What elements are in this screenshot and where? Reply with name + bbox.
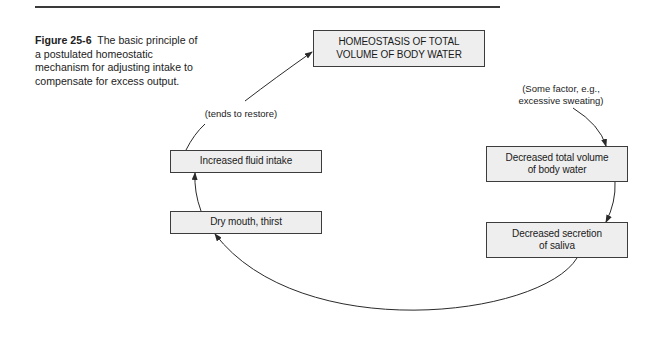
arrow-intake-to-top-lower [186, 124, 205, 150]
annotation-factor-line2: excessive sweating) [511, 95, 611, 107]
annotation-tends-to-restore: (tends to restore) [196, 108, 286, 120]
arrow-intake-to-top-upper [245, 52, 312, 101]
arrow-volume-to-saliva [606, 182, 615, 222]
node-decreased-total-volume: Decreased total volume of body water [486, 146, 628, 182]
annotation-factor-line1: (Some factor, e.g., [511, 83, 611, 95]
node-decreased-saliva-line1: Decreased secretion [512, 228, 602, 241]
node-decreased-saliva: Decreased secretion of saliva [486, 222, 628, 258]
arrow-factor-to-volume [573, 108, 606, 146]
node-decreased-volume-line1: Decreased total volume [506, 152, 609, 165]
node-dry-mouth-label: Dry mouth, thirst [210, 216, 282, 229]
arrow-drymouth-to-intake [195, 173, 201, 211]
node-decreased-saliva-line2: of saliva [512, 240, 602, 253]
node-homeostasis-line1: HOMEOSTASIS OF TOTAL [336, 36, 462, 49]
node-increased-fluid-intake: Increased fluid intake [170, 150, 322, 173]
node-decreased-volume-line2: of body water [506, 164, 609, 177]
annotation-some-factor: (Some factor, e.g., excessive sweating) [511, 83, 611, 107]
node-dry-mouth-thirst: Dry mouth, thirst [170, 211, 322, 234]
node-homeostasis: HOMEOSTASIS OF TOTAL VOLUME OF BODY WATE… [313, 30, 485, 67]
node-increased-fluid-intake-label: Increased fluid intake [200, 155, 292, 168]
node-homeostasis-line2: VOLUME OF BODY WATER [336, 49, 462, 62]
annotation-restore-text: (tends to restore) [205, 108, 277, 119]
